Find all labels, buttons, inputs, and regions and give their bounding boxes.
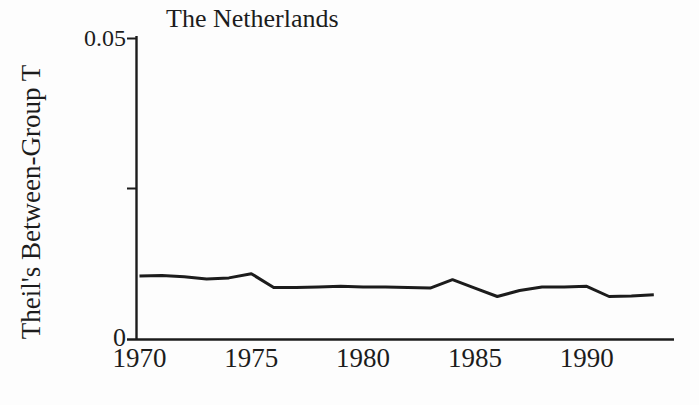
theil-chart-figure: The Netherlands Theil's Between-Group T … (0, 0, 699, 405)
x-tick-label-1990: 1990 (560, 344, 614, 374)
x-tick-label-1985: 1985 (448, 344, 502, 374)
x-tick-label-1975: 1975 (224, 344, 278, 374)
data-line-netherlands (140, 274, 654, 297)
x-tick-label-1970: 1970 (113, 344, 167, 374)
x-tick-label-1980: 1980 (336, 344, 390, 374)
